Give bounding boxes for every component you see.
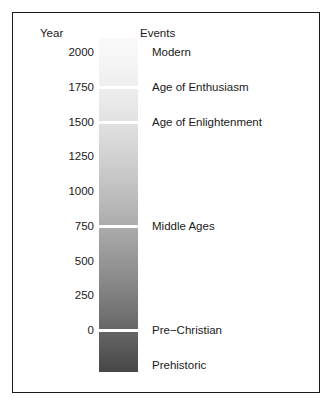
event-label: Middle Ages <box>152 220 215 232</box>
event-label: Pre−Christian <box>152 324 222 336</box>
year-tick-label: 2000 <box>38 46 94 58</box>
timeline-gradient-bar <box>99 38 138 372</box>
era-separator <box>99 329 138 332</box>
event-label: Modern <box>152 46 191 58</box>
year-tick-label: 1750 <box>38 81 94 93</box>
year-tick-label: 1000 <box>38 185 94 197</box>
year-tick-label: 750 <box>38 220 94 232</box>
column-header-year: Year <box>40 27 63 39</box>
event-label: Prehistoric <box>152 359 206 371</box>
year-tick-label: 1250 <box>38 150 94 162</box>
year-tick-label: 250 <box>38 289 94 301</box>
year-tick-label: 500 <box>38 255 94 267</box>
timeline-figure: Year Events 2000175015001250100075050025… <box>0 0 333 407</box>
era-separator <box>99 121 138 124</box>
event-label: Age of Enlightenment <box>152 116 262 128</box>
era-separator <box>99 225 138 228</box>
gradient-slice <box>99 371 138 372</box>
year-tick-label: 0 <box>38 324 94 336</box>
event-label: Age of Enthusiasm <box>152 81 249 93</box>
year-tick-label: 1500 <box>38 116 94 128</box>
column-header-events: Events <box>140 27 175 39</box>
era-separator <box>99 86 138 89</box>
